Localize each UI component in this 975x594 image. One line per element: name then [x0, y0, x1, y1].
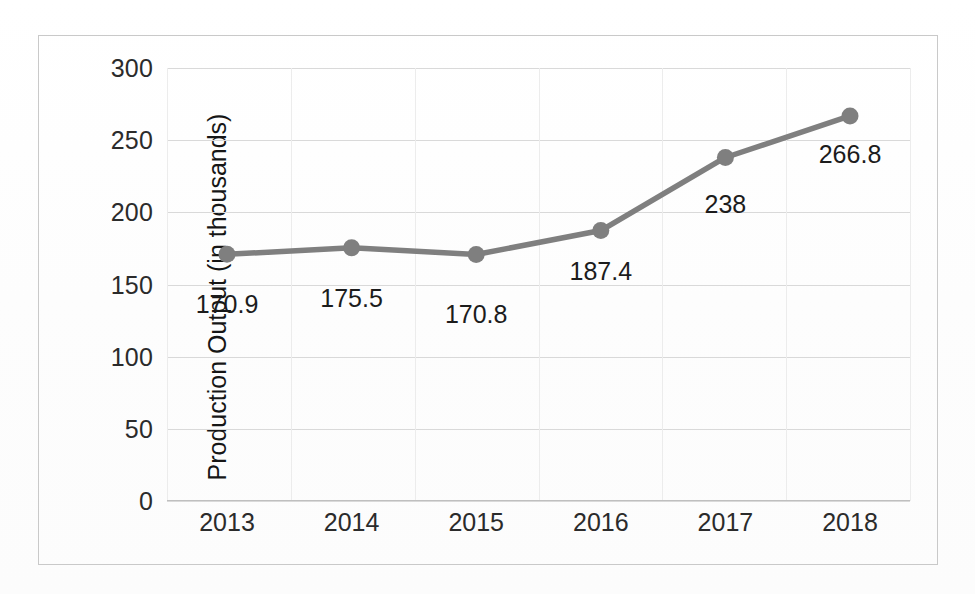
x-axis-ticks: 201320142015201620172018 [167, 508, 910, 544]
y-axis-tick-label: 50 [125, 414, 153, 443]
data-point-marker [468, 246, 485, 263]
x-axis-tick-label: 2013 [199, 508, 255, 537]
plot-area [167, 68, 910, 501]
data-point-marker [717, 149, 734, 166]
x-axis-tick-label: 2018 [822, 508, 878, 537]
gridline-vertical [910, 68, 911, 501]
y-axis-tick-label: 150 [111, 270, 153, 299]
series-line-layer [167, 68, 910, 501]
data-point-label: 187.4 [570, 257, 633, 286]
x-axis-tick-label: 2017 [698, 508, 754, 537]
x-axis-tick-label: 2016 [573, 508, 629, 537]
x-axis-tick-label: 2014 [324, 508, 380, 537]
gridline-horizontal [167, 501, 910, 502]
data-point-label: 266.8 [819, 140, 882, 169]
data-point-label: 170.9 [196, 290, 259, 319]
data-point-marker [219, 246, 236, 263]
data-point-label: 170.8 [445, 300, 508, 329]
y-axis-tick-label: 250 [111, 126, 153, 155]
y-axis-tick-label: 200 [111, 198, 153, 227]
y-axis-tick-label: 300 [111, 54, 153, 83]
data-point-label: 238 [705, 190, 747, 219]
data-point-marker [842, 107, 859, 124]
x-axis-tick-label: 2015 [448, 508, 504, 537]
series-line [227, 116, 850, 255]
y-axis-tick-label: 0 [139, 487, 153, 516]
y-axis-tick-label: 100 [111, 342, 153, 371]
y-axis-ticks: 300250200150100500 [95, 68, 153, 501]
y-axis-title: Production Output (in thousands) [34, 283, 74, 312]
data-point-marker [343, 239, 360, 256]
data-point-marker [592, 222, 609, 239]
chart-canvas: Production Output (in thousands) 3002502… [0, 0, 975, 594]
data-point-label: 175.5 [320, 284, 383, 313]
